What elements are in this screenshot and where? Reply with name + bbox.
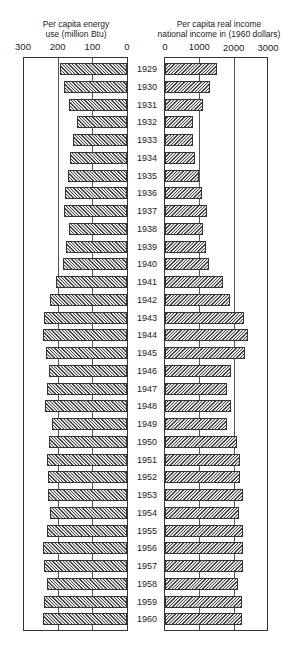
year-label: 1950: [129, 437, 165, 447]
income-bar-1930: [165, 81, 210, 93]
income-bar-1954: [165, 507, 239, 519]
income-bar-1959: [165, 596, 242, 608]
year-label: 1933: [129, 135, 165, 145]
income-bar-1956: [165, 542, 243, 554]
year-label: 1958: [129, 579, 165, 589]
energy-bar-1938: [69, 223, 127, 235]
energy-bar-1951: [47, 454, 127, 466]
energy-bar-1948: [45, 400, 127, 412]
income-bar-1950: [165, 436, 237, 448]
income-bar-1940: [165, 258, 209, 270]
income-bar-1935: [165, 170, 199, 182]
left-panel-title: Per capita energy use (million Btu): [20, 19, 132, 39]
income-bar-1955: [165, 525, 243, 537]
year-label: 1960: [129, 614, 165, 624]
year-label: 1934: [129, 153, 165, 163]
income-bar-1929: [165, 63, 217, 75]
income-bar-1960: [165, 613, 242, 625]
year-label: 1931: [129, 100, 165, 110]
energy-bar-1956: [43, 542, 127, 554]
energy-bar-1959: [44, 596, 127, 608]
left-axis-tick: 200: [50, 41, 66, 52]
income-bar-1947: [165, 383, 227, 395]
income-bar-1939: [165, 241, 206, 253]
year-label: 1939: [129, 242, 165, 252]
energy-bar-1947: [47, 383, 127, 395]
income-bar-1949: [165, 418, 227, 430]
year-label: 1956: [129, 543, 165, 553]
year-label: 1945: [129, 348, 165, 358]
year-label: 1952: [129, 472, 165, 482]
energy-bar-1933: [73, 134, 127, 146]
energy-bar-1934: [70, 152, 127, 164]
energy-bar-1929: [60, 63, 127, 75]
energy-bar-1940: [63, 258, 127, 270]
income-bar-1948: [165, 400, 231, 412]
year-label: 1946: [129, 366, 165, 376]
income-bar-1943: [165, 312, 244, 324]
energy-bar-1930: [64, 81, 127, 93]
year-label: 1949: [129, 419, 165, 429]
energy-bar-1945: [46, 347, 127, 359]
year-label: 1947: [129, 384, 165, 394]
income-bar-1941: [165, 276, 223, 288]
year-label: 1935: [129, 171, 165, 181]
year-label: 1929: [129, 64, 165, 74]
energy-bar-1958: [47, 578, 127, 590]
right-panel-title: Per capita real income national income i…: [154, 19, 284, 39]
income-bar-1934: [165, 152, 195, 164]
income-bar-1931: [165, 99, 203, 111]
year-label: 1941: [129, 277, 165, 287]
income-bar-1945: [165, 347, 245, 359]
income-bar-1946: [165, 365, 231, 377]
energy-bar-1944: [43, 329, 127, 341]
year-label: 1954: [129, 508, 165, 518]
energy-bar-1931: [69, 99, 127, 111]
energy-bar-1954: [50, 507, 127, 519]
year-label: 1936: [129, 188, 165, 198]
income-bar-1932: [165, 116, 193, 128]
energy-bar-1935: [68, 170, 127, 182]
year-label: 1938: [129, 224, 165, 234]
year-label: 1959: [129, 597, 165, 607]
energy-bar-1946: [49, 365, 127, 377]
energy-bar-1937: [64, 205, 127, 217]
energy-bar-1949: [52, 418, 127, 430]
energy-bar-1939: [66, 241, 127, 253]
year-label: 1955: [129, 526, 165, 536]
energy-bar-1943: [44, 312, 127, 324]
income-bar-1938: [165, 223, 203, 235]
right-title-line1: Per capita real income: [154, 19, 284, 29]
income-bar-1952: [165, 471, 240, 483]
energy-bar-1952: [48, 471, 127, 483]
left-axis-tick: 100: [84, 41, 100, 52]
income-bar-1942: [165, 294, 230, 306]
left-title-line2: use (million Btu): [20, 29, 132, 39]
income-bar-1933: [165, 134, 193, 146]
energy-bar-1953: [48, 489, 127, 501]
right-axis-tick: 3000: [257, 42, 278, 53]
left-axis-tick: 300: [15, 41, 31, 52]
left-axis-tick: 0: [124, 41, 129, 52]
right-axis-tick: 0: [162, 41, 167, 52]
energy-bar-1960: [43, 613, 127, 625]
year-label: 1957: [129, 561, 165, 571]
year-label: 1953: [129, 490, 165, 500]
year-label: 1943: [129, 313, 165, 323]
year-label: 1948: [129, 401, 165, 411]
year-label: 1944: [129, 330, 165, 340]
income-bar-1951: [165, 454, 240, 466]
year-label: 1951: [129, 455, 165, 465]
income-bar-1953: [165, 489, 243, 501]
right-axis-tick: 1000: [189, 41, 210, 52]
right-title-line2: national income in (1960 dollars): [154, 29, 284, 39]
energy-bar-1942: [50, 294, 127, 306]
energy-bar-1955: [47, 525, 127, 537]
left-title-line1: Per capita energy: [20, 19, 132, 29]
income-bar-1958: [165, 578, 238, 590]
right-axis-tick: 2000: [223, 42, 244, 53]
income-bar-1957: [165, 560, 243, 572]
income-bar-1944: [165, 329, 248, 341]
year-label: 1940: [129, 259, 165, 269]
energy-bar-1957: [44, 560, 127, 572]
